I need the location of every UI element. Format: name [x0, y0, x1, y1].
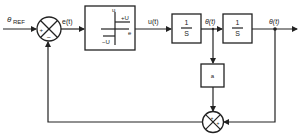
feedback-summer-right-sign: +: [217, 120, 220, 126]
integrator-block-2: 1 S: [223, 14, 252, 43]
integrator-1-numerator: 1: [185, 19, 189, 26]
integrator-2-numerator: 1: [236, 19, 240, 26]
gain-block: a: [201, 64, 224, 87]
control-block-diagram: θ REF + − e(t) u +U e −U u(t) 1 S θ̇(t): [0, 0, 301, 136]
reference-input: θ REF: [3, 15, 36, 29]
summing-junction-main: + −: [37, 17, 61, 41]
relay-plus-u-label: +U: [121, 15, 129, 21]
error-signal-label: e(t): [62, 18, 73, 26]
feedback-summer-top-sign: +: [211, 115, 214, 121]
relay-minus-u-label: −U: [102, 39, 110, 45]
summing-junction-feedback: + +: [203, 112, 224, 133]
summer-minus-sign: −: [47, 34, 51, 41]
relay-box: [85, 6, 135, 50]
reference-label: θ: [7, 15, 12, 24]
reference-subscript: REF: [13, 19, 25, 25]
integrator-block-1: 1 S: [172, 14, 201, 43]
integrator-2-denominator: S: [235, 30, 240, 37]
combined-feedback-line: [48, 42, 203, 122]
position-signal-label: θ(t): [269, 18, 279, 26]
control-signal-label: u(t): [148, 18, 159, 26]
summer-plus-sign: +: [40, 27, 44, 33]
integrator-1-denominator: S: [184, 30, 189, 37]
relay-u-label: u: [112, 7, 115, 13]
relay-block: u +U e −U: [85, 6, 135, 50]
velocity-signal-label: θ̇(t): [205, 18, 215, 26]
